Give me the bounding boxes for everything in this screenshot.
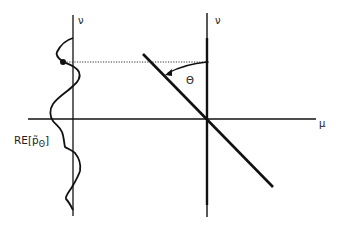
left-nu-axis-label: ν	[78, 15, 84, 26]
theta-label: Θ	[186, 75, 194, 86]
mu-axis-label: μ	[319, 118, 326, 129]
curve-label-prefix: RE[	[14, 134, 32, 146]
right-nu-axis-label: ν	[215, 15, 221, 26]
arrowhead-icon	[165, 69, 172, 76]
theta-arc	[168, 62, 207, 73]
svg-text:RE[p̃Θ]: RE[p̃Θ]	[14, 134, 49, 149]
projection-slice-diagram: μ ν ν Θ RE[p̃Θ]	[0, 0, 340, 228]
pivot-dot	[205, 60, 208, 63]
curve-label: RE[p̃Θ]	[14, 134, 49, 149]
curve-label-suffix: ]	[45, 134, 49, 146]
sample-point	[60, 59, 66, 65]
